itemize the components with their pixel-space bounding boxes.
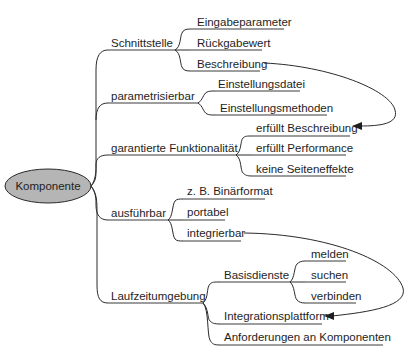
leaf-portabel[interactable]: portabel bbox=[183, 206, 229, 220]
root-label: Komponente bbox=[15, 180, 80, 192]
svg-text:keine Seiteneffekte: keine Seiteneffekte bbox=[256, 163, 354, 175]
svg-text:parametrisierbar: parametrisierbar bbox=[111, 90, 195, 102]
svg-text:Einstellungsdatei: Einstellungsdatei bbox=[218, 78, 305, 90]
leaf-einstellungsdatei[interactable]: Einstellungsdatei bbox=[215, 78, 305, 91]
svg-text:z. B. Binärformat: z. B. Binärformat bbox=[187, 185, 273, 197]
svg-text:garantierte Funktionalität: garantierte Funktionalität bbox=[111, 142, 238, 154]
root-node[interactable]: Komponente bbox=[5, 169, 91, 203]
crosslink-beschreibung bbox=[264, 63, 396, 130]
node-basisdienste[interactable]: Basisdienste bbox=[220, 261, 305, 303]
svg-text:Eingabeparameter: Eingabeparameter bbox=[197, 16, 292, 28]
leaf-integrationsplattform[interactable]: Integrationsplattform bbox=[220, 310, 329, 324]
leaf-verbinden[interactable]: verbinden bbox=[305, 290, 362, 303]
svg-text:integrierbar: integrierbar bbox=[187, 227, 245, 239]
leaf-eingabeparameter[interactable]: Eingabeparameter bbox=[190, 16, 292, 29]
leaf-erfuellt-performance[interactable]: erfüllt Performance bbox=[252, 142, 353, 155]
leaf-rueckgabewert[interactable]: Rückgabewert bbox=[190, 37, 271, 50]
svg-text:suchen: suchen bbox=[311, 269, 348, 281]
edge-funktionalitaet bbox=[91, 155, 108, 186]
leaf-anforderungen[interactable]: Anforderungen an Komponenten bbox=[220, 331, 391, 345]
leaf-melden[interactable]: melden bbox=[305, 248, 349, 261]
svg-text:erfüllt Beschreibung: erfüllt Beschreibung bbox=[256, 122, 358, 134]
svg-text:ausführbar: ausführbar bbox=[111, 207, 166, 219]
edge-parametrisierbar bbox=[96, 103, 108, 120]
svg-text:portabel: portabel bbox=[187, 206, 229, 218]
svg-text:Rückgabewert: Rückgabewert bbox=[197, 37, 271, 49]
mind-map: Komponente Schnittstelle Eingabeparamete… bbox=[0, 0, 419, 360]
branch-laufzeitumgebung[interactable]: Laufzeitumgebung bbox=[108, 282, 220, 345]
leaf-erfuellt-beschreibung[interactable]: erfüllt Beschreibung bbox=[252, 122, 358, 136]
svg-text:verbinden: verbinden bbox=[311, 290, 362, 302]
leaf-suchen[interactable]: suchen bbox=[305, 269, 348, 282]
svg-text:Laufzeitumgebung: Laufzeitumgebung bbox=[111, 290, 206, 302]
svg-text:Einstellungsmethoden: Einstellungsmethoden bbox=[220, 102, 333, 114]
svg-text:Anforderungen an Komponenten: Anforderungen an Komponenten bbox=[224, 331, 391, 343]
svg-text:Basisdienste: Basisdienste bbox=[224, 269, 289, 281]
branch-parametrisierbar[interactable]: parametrisierbar bbox=[108, 90, 215, 115]
svg-text:melden: melden bbox=[311, 248, 349, 260]
leaf-integrierbar[interactable]: integrierbar bbox=[183, 227, 245, 241]
edge-laufzeitumgebung bbox=[91, 186, 108, 303]
leaf-einstellungsmethoden[interactable]: Einstellungsmethoden bbox=[215, 102, 333, 115]
svg-text:Beschreibung: Beschreibung bbox=[197, 58, 267, 70]
branch-schnittstelle[interactable]: Schnittstelle bbox=[108, 29, 190, 71]
leaf-beschreibung[interactable]: Beschreibung bbox=[190, 58, 267, 71]
crosslink-curve bbox=[264, 63, 396, 126]
svg-text:Integrationsplattform: Integrationsplattform bbox=[224, 310, 329, 322]
branch-ausfuehrbar[interactable]: ausführbar bbox=[108, 199, 183, 241]
root-edges bbox=[91, 50, 108, 303]
leaf-keine-seiteneffekte[interactable]: keine Seiteneffekte bbox=[252, 163, 354, 176]
branch-garantierte-funktionalitaet[interactable]: garantierte Funktionalität bbox=[108, 136, 252, 176]
svg-text:erfüllt Performance: erfüllt Performance bbox=[256, 142, 353, 154]
branch-label: Schnittstelle bbox=[111, 37, 173, 49]
edge-schnittstelle bbox=[91, 50, 108, 186]
leaf-binaerformat[interactable]: z. B. Binärformat bbox=[183, 185, 273, 199]
